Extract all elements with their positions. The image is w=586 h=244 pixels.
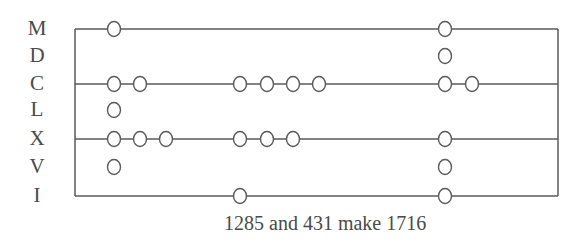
counter-circle-icon [108, 160, 121, 175]
counting-board [0, 0, 586, 244]
counter-circle-icon [439, 189, 452, 204]
counter-circle-icon [439, 132, 452, 147]
counter-circle-icon [261, 77, 274, 92]
counter-circle-icon [160, 132, 173, 147]
counter-circle-icon [261, 132, 274, 147]
row-label-c: C [26, 72, 48, 94]
row-label-x: X [26, 127, 48, 149]
counter-circle-icon [234, 132, 247, 147]
counting-board-diagram: MDCLXVI 1285 and 431 make 1716 [0, 0, 586, 244]
counter-circle-icon [108, 132, 121, 147]
counter-circle-icon [439, 49, 452, 64]
counter-circle-icon [234, 189, 247, 204]
row-label-m: M [26, 17, 48, 39]
counter-circle-icon [466, 77, 479, 92]
caption: 1285 and 431 make 1716 [224, 211, 426, 235]
row-label-l: L [26, 98, 48, 120]
counter-circle-icon [439, 77, 452, 92]
counter-circle-icon [134, 132, 147, 147]
counter-circle-icon [108, 103, 121, 118]
row-label-i: I [26, 184, 48, 206]
counter-circle-icon [108, 22, 121, 37]
counter-circle-icon [313, 77, 326, 92]
counter-circle-icon [287, 132, 300, 147]
counter-circle-icon [287, 77, 300, 92]
row-label-v: V [26, 155, 48, 177]
row-label-d: D [26, 44, 48, 66]
counter-circle-icon [439, 160, 452, 175]
counter-circle-icon [108, 77, 121, 92]
counter-circle-icon [234, 77, 247, 92]
counter-circle-icon [439, 22, 452, 37]
counter-circle-icon [134, 77, 147, 92]
